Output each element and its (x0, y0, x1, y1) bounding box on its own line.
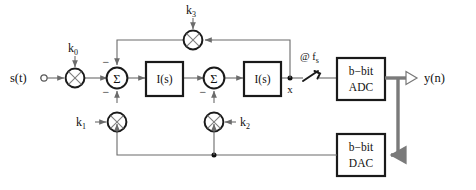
summer-1-sign-top: − (103, 55, 110, 69)
input-signal-label: s(t) (10, 71, 27, 85)
block-diagram-canvas: s(t) k0 Σ − − I(s) Σ − (0, 0, 476, 190)
adc-block: b−bit ADC (337, 58, 385, 100)
digital-output-bus (385, 78, 406, 155)
integrator-2-label: I(s) (255, 73, 271, 86)
summer-1-symbol: Σ (113, 72, 120, 86)
dac-label-line1: b−bit (349, 141, 374, 153)
gain-label-k1: k1 (76, 115, 86, 131)
adc-label-line1: b−bit (349, 65, 374, 77)
gain-label-k3: k3 (186, 3, 196, 19)
summer-1-sign-bottom: − (103, 85, 110, 99)
gain-label-k0: k0 (68, 41, 78, 57)
sampling-clock-label: @ fs (300, 51, 319, 65)
sampling-switch[interactable] (303, 71, 320, 81)
integrator-block-2: I(s) (244, 62, 281, 96)
node-label-x: x (287, 83, 293, 95)
gain-multiplier-k0[interactable] (66, 56, 85, 87)
dac-block: b−bit DAC (337, 134, 385, 176)
output-signal-label: y(n) (424, 71, 445, 85)
dac-label-line2: DAC (349, 157, 374, 169)
integrator-1-label: I(s) (157, 73, 173, 86)
gain-multiplier-k2[interactable] (205, 113, 236, 134)
gain-multiplier-k3[interactable] (184, 18, 203, 49)
summer-2-sign: − (200, 85, 207, 99)
summing-junction-2: Σ − (200, 68, 225, 103)
diagram-svg: s(t) k0 Σ − − I(s) Σ − (0, 0, 476, 190)
dac-feedback-wire (117, 132, 337, 158)
summer-2-symbol: Σ (210, 72, 217, 86)
integrator-block-1: I(s) (146, 62, 183, 96)
input-terminal-icon (41, 75, 47, 81)
gain-multiplier-k1[interactable] (95, 113, 126, 132)
gain-label-k2: k2 (240, 115, 250, 131)
adc-label-line2: ADC (349, 81, 374, 93)
output-arrow-icon (406, 72, 417, 85)
summing-junction-1: Σ − − (103, 52, 128, 103)
